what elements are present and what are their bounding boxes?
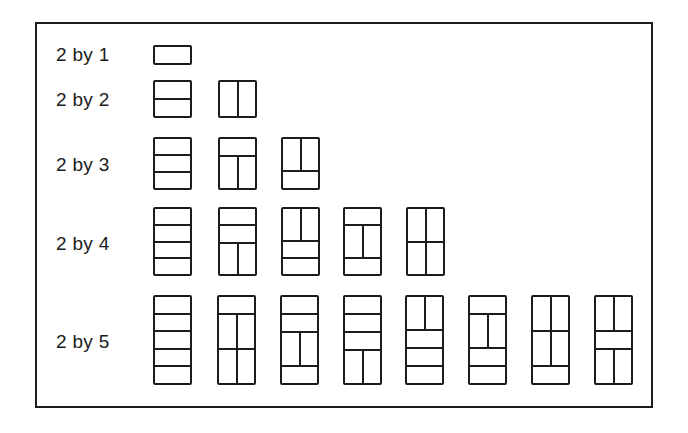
horizontal-domino xyxy=(282,297,317,313)
vertical-domino xyxy=(283,139,300,170)
horizontal-domino xyxy=(345,257,380,274)
vertical-domino xyxy=(550,297,569,330)
vertical-domino-pair xyxy=(345,224,380,257)
vertical-domino xyxy=(237,244,256,275)
vertical-domino xyxy=(408,209,425,241)
vertical-domino xyxy=(362,351,381,383)
tiling-diagram xyxy=(218,207,257,276)
vertical-domino-pair xyxy=(282,331,317,365)
tiling-diagram xyxy=(218,80,257,118)
horizontal-domino xyxy=(155,139,190,154)
vertical-domino-pair xyxy=(596,348,631,383)
horizontal-domino xyxy=(407,347,442,365)
horizontal-domino xyxy=(155,297,190,313)
row-label: 2 by 3 xyxy=(56,155,110,174)
vertical-domino xyxy=(424,297,443,329)
horizontal-domino xyxy=(219,297,254,313)
horizontal-domino xyxy=(470,297,505,313)
vertical-domino xyxy=(300,139,319,170)
horizontal-domino xyxy=(220,139,255,155)
tiling-diagram xyxy=(153,207,192,276)
vertical-domino xyxy=(219,315,236,348)
vertical-domino-pair xyxy=(220,242,255,275)
vertical-domino xyxy=(533,297,550,330)
horizontal-domino xyxy=(155,209,190,224)
horizontal-domino xyxy=(155,348,190,366)
vertical-domino xyxy=(533,332,550,365)
tiling-diagram xyxy=(594,295,633,385)
vertical-domino-pair xyxy=(220,82,255,116)
tiling-diagram xyxy=(153,295,192,385)
tiling-diagram xyxy=(531,295,570,385)
row-label: 2 by 2 xyxy=(56,90,110,109)
vertical-domino xyxy=(425,243,444,275)
horizontal-domino xyxy=(470,365,505,383)
vertical-domino xyxy=(237,157,256,188)
tiling-diagram xyxy=(280,295,319,385)
vertical-domino-pair xyxy=(283,139,318,170)
vertical-domino xyxy=(596,297,613,330)
horizontal-domino xyxy=(220,224,255,241)
vertical-domino xyxy=(613,297,632,330)
horizontal-domino xyxy=(220,209,255,224)
vertical-domino-pair xyxy=(533,297,568,330)
horizontal-domino xyxy=(155,224,190,241)
vertical-domino xyxy=(220,244,237,275)
horizontal-domino xyxy=(155,313,190,331)
vertical-domino xyxy=(219,350,236,383)
tiling-diagram xyxy=(281,137,320,190)
horizontal-domino xyxy=(345,313,380,331)
horizontal-domino xyxy=(282,313,317,331)
vertical-domino xyxy=(220,157,237,188)
vertical-domino xyxy=(282,333,299,365)
vertical-domino-pair xyxy=(219,348,254,383)
row-label: 2 by 1 xyxy=(56,45,110,64)
row-label: 2 by 5 xyxy=(56,332,110,351)
horizontal-domino xyxy=(345,297,380,313)
tiling-diagram xyxy=(343,295,382,385)
vertical-domino xyxy=(596,350,613,383)
row-label: 2 by 4 xyxy=(56,234,110,253)
vertical-domino xyxy=(236,350,255,383)
horizontal-domino xyxy=(155,171,190,188)
horizontal-domino xyxy=(283,257,318,274)
vertical-domino xyxy=(237,82,256,116)
horizontal-domino xyxy=(155,330,190,348)
vertical-domino-pair xyxy=(470,313,505,347)
tiling-diagram xyxy=(281,207,320,276)
vertical-domino-pair xyxy=(596,297,631,330)
vertical-domino xyxy=(220,82,237,116)
vertical-domino xyxy=(613,350,632,383)
vertical-domino-pair xyxy=(283,209,318,240)
vertical-domino xyxy=(345,351,362,383)
vertical-domino xyxy=(425,209,444,241)
horizontal-domino xyxy=(345,331,380,349)
vertical-domino xyxy=(299,333,318,365)
vertical-domino xyxy=(550,332,569,365)
tiling-diagram xyxy=(218,137,257,190)
horizontal-domino xyxy=(155,241,190,258)
tiling-diagram xyxy=(153,80,192,118)
horizontal-domino xyxy=(155,82,190,98)
vertical-domino-pair xyxy=(408,209,443,241)
horizontal-domino xyxy=(407,365,442,383)
horizontal-domino xyxy=(470,347,505,365)
tiling-diagram xyxy=(468,295,507,385)
tiling-diagram xyxy=(406,207,445,276)
horizontal-domino xyxy=(533,365,568,383)
vertical-domino xyxy=(470,315,487,347)
vertical-domino xyxy=(236,315,255,348)
tiling-diagram xyxy=(343,207,382,276)
vertical-domino-pair xyxy=(533,330,568,365)
vertical-domino-pair xyxy=(408,241,443,275)
horizontal-domino xyxy=(596,330,631,348)
tiling-diagram xyxy=(217,295,256,385)
vertical-domino xyxy=(300,209,319,240)
vertical-domino xyxy=(408,243,425,275)
horizontal-domino xyxy=(155,365,190,383)
vertical-domino xyxy=(362,226,381,257)
horizontal-domino xyxy=(155,257,190,274)
vertical-domino-pair xyxy=(407,297,442,329)
tiling-diagram xyxy=(153,137,192,190)
horizontal-domino xyxy=(283,240,318,257)
